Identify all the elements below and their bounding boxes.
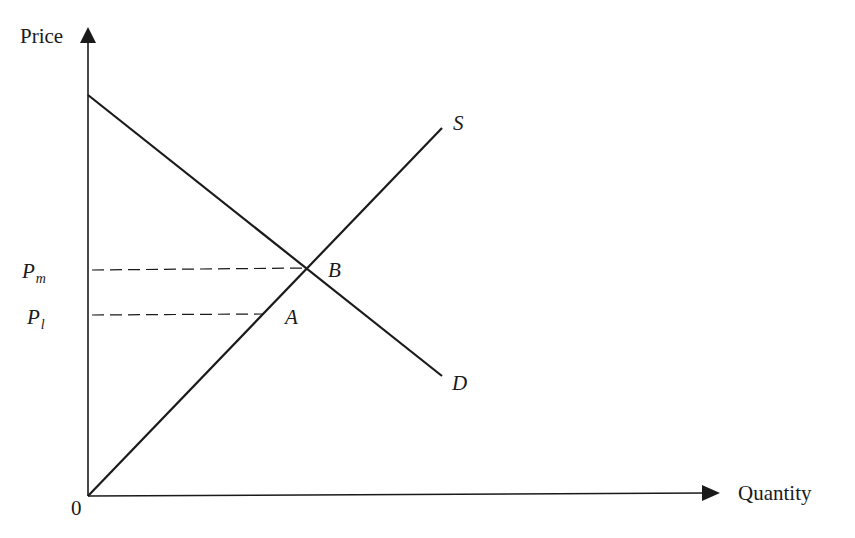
- demand-label: D: [451, 371, 467, 395]
- x-axis-label: Quantity: [738, 481, 812, 505]
- x-axis-arrow-icon: [702, 485, 720, 501]
- point-a-label: A: [283, 305, 298, 329]
- demand-curve: [88, 95, 442, 376]
- pl-label: Pl: [26, 305, 45, 332]
- x-axis: [88, 493, 706, 496]
- y-axis-arrow-icon: [80, 27, 96, 43]
- pm-dashed-line: [92, 268, 306, 270]
- point-b-label: B: [328, 258, 341, 282]
- supply-curve: [88, 128, 442, 496]
- supply-demand-diagram: Price Quantity 0 S D B A Pm Pl: [0, 0, 855, 538]
- pm-label: Pm: [21, 259, 46, 286]
- pl-dashed-line: [92, 314, 262, 315]
- origin-label: 0: [71, 496, 82, 520]
- supply-label: S: [453, 111, 464, 135]
- y-axis-label: Price: [20, 24, 63, 48]
